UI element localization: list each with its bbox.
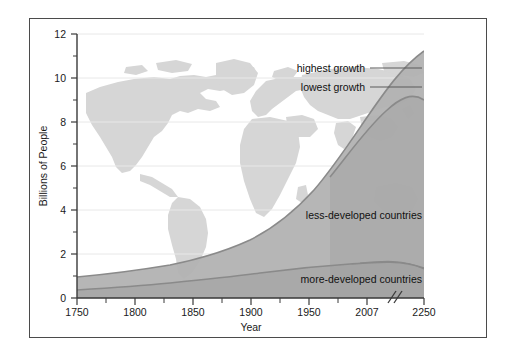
population-growth-chart: 0 2 4 6 8 10 12 1750 1800 1850 1900 1950… xyxy=(30,19,486,337)
more-developed-countries-label: more-developed countries xyxy=(301,273,422,285)
less-developed-countries-label: less-developed countries xyxy=(306,209,422,221)
x-axis-title: Year xyxy=(240,321,262,333)
y-tick-label-12: 12 xyxy=(54,28,66,40)
y-tick-label-8: 8 xyxy=(60,116,66,128)
x-axis-minor-ticks xyxy=(106,298,338,303)
y-axis-major-ticks xyxy=(71,34,77,298)
lowest-growth-label: lowest growth xyxy=(301,81,365,93)
y-tick-label-2: 2 xyxy=(60,248,66,260)
x-axis-major-ticks xyxy=(77,298,424,305)
figure-frame: 0 2 4 6 8 10 12 1750 1800 1850 1900 1950… xyxy=(29,18,487,338)
x-tick-label-1850: 1850 xyxy=(181,306,205,318)
x-tick-label-1950: 1950 xyxy=(297,306,321,318)
x-tick-label-1900: 1900 xyxy=(239,306,263,318)
y-axis-title: Billions of People xyxy=(37,126,49,207)
x-tick-label-2007: 2007 xyxy=(355,306,379,318)
y-tick-label-4: 4 xyxy=(60,204,66,216)
x-tick-label-1750: 1750 xyxy=(65,306,89,318)
y-tick-label-6: 6 xyxy=(60,160,66,172)
figure-container: 0 2 4 6 8 10 12 1750 1800 1850 1900 1950… xyxy=(0,0,513,355)
y-tick-label-10: 10 xyxy=(54,72,66,84)
x-tick-label-2250: 2250 xyxy=(412,306,436,318)
y-tick-label-0: 0 xyxy=(60,292,66,304)
highest-growth-label: highest growth xyxy=(297,62,365,74)
x-tick-label-1800: 1800 xyxy=(123,306,147,318)
